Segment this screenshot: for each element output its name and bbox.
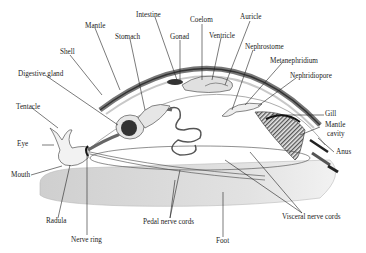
label-nephridiopore: Nephridiopore	[290, 73, 332, 80]
gonad-shape	[167, 79, 183, 85]
label-tentacle: Tentacle	[16, 104, 40, 111]
label-gill: Gill	[325, 111, 336, 118]
label-anus: Anus	[336, 149, 351, 156]
label-stomach: Stomach	[115, 34, 140, 41]
label-coelom: Coelom	[190, 17, 213, 24]
label-ventricle: Ventricle	[209, 33, 235, 40]
label-mantle-cavity-2: cavity	[327, 131, 345, 138]
head-shape	[50, 128, 90, 166]
label-digestive-gland: Digestive gland	[18, 71, 63, 78]
label-nephrostome: Nephrostome	[245, 44, 284, 51]
label-eye: Eye	[17, 141, 28, 148]
label-foot: Foot	[216, 238, 229, 245]
label-mantle-cavity-1: Mantle	[325, 122, 345, 129]
label-mantle: Mantle	[85, 23, 105, 30]
label-radula: Radula	[46, 218, 66, 225]
label-intestine: Intestine	[136, 12, 161, 19]
label-shell: Shell	[60, 49, 75, 56]
label-visceral-nerve-cords: Visceral nerve cords	[282, 214, 341, 221]
label-auricle: Auricle	[240, 14, 262, 21]
intestine-loops	[170, 107, 201, 155]
label-pedal-nerve-cords: Pedal nerve cords	[143, 219, 194, 226]
label-nerve-ring: Nerve ring	[71, 237, 102, 244]
label-mouth: Mouth	[11, 172, 30, 179]
label-metanephridium: Metanephridium	[270, 58, 318, 65]
foot-shape	[40, 160, 336, 206]
digestive-gland-core	[121, 120, 137, 136]
stomach-shape	[138, 105, 170, 129]
label-gonad: Gonad	[170, 34, 189, 41]
